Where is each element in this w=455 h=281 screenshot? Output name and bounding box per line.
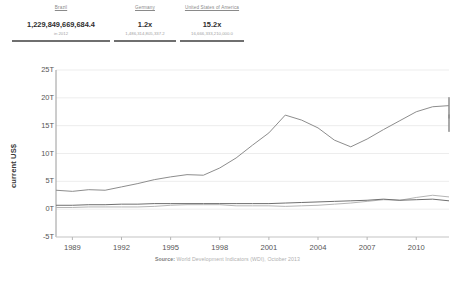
kpi-subtext: 1,486,314,805,337.2 [114, 30, 176, 37]
plot-area [0, 62, 455, 262]
kpi-spacer [12, 11, 110, 20]
series-line [56, 195, 449, 207]
country-comparison-strip: Brazil 1,229,849,669,684.4 in 2012 Germa… [12, 4, 244, 42]
kpi-subtext: in 2012 [12, 30, 110, 37]
kpi-spacer [180, 11, 244, 20]
kpi-column-germany[interactable]: Germany 1.2x 1,486,314,805,337.2 [114, 4, 176, 42]
kpi-subtext: 16,666,333,210,000.0 [180, 30, 244, 37]
kpi-column-united-states[interactable]: United States of America 15.2x 16,666,33… [180, 4, 244, 42]
kpi-country-name[interactable]: Germany [114, 4, 176, 11]
kpi-value: 1,229,849,669,684.4 [12, 20, 110, 29]
series-line [56, 97, 449, 191]
kpi-value: 15.2x [180, 20, 244, 29]
source-text: World Development Indicators (WDI), Octo… [177, 256, 301, 262]
series-line [56, 199, 449, 205]
source-attribution: Source: World Development Indicators (WD… [0, 256, 455, 262]
kpi-underline-bar [114, 40, 176, 42]
line-chart: current US$ 25T20T15T10T5T0T-5T 19891992… [0, 62, 455, 262]
kpi-country-name[interactable]: Brazil [12, 4, 110, 11]
kpi-spacer [114, 11, 176, 20]
source-label: Source: [155, 256, 175, 262]
kpi-column-brazil[interactable]: Brazil 1,229,849,669,684.4 in 2012 [12, 4, 110, 42]
kpi-underline-bar [12, 40, 110, 42]
kpi-value: 1.2x [114, 20, 176, 29]
kpi-country-name[interactable]: United States of America [180, 4, 244, 11]
chart-page: Brazil 1,229,849,669,684.4 in 2012 Germa… [0, 0, 455, 281]
kpi-underline-bar [180, 40, 244, 42]
